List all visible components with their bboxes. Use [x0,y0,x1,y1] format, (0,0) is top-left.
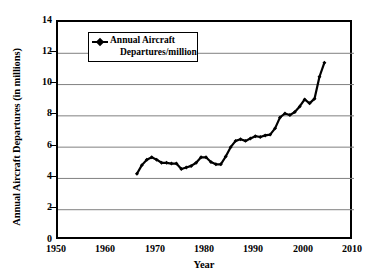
x-tick-label-1960: 1960 [83,243,127,254]
data-point-1973 [169,162,173,166]
x-tick-label-2000: 2000 [281,243,325,254]
x-tick-label-1980: 1980 [182,243,226,254]
legend-label-line2: Departures/million [110,47,197,59]
y-tick-label-6: 6 [26,140,52,150]
data-series-markers [135,61,326,176]
legend-label-line1: Annual Aircraft [110,35,175,45]
y-tick-label-10: 10 [26,77,52,87]
x-tick-label-1950: 1950 [34,243,78,254]
x-tick-label-1970: 1970 [133,243,177,254]
x-tick-label-2010: 2010 [330,243,374,254]
chart-legend: Annual Aircraft Departures/million [88,32,198,62]
x-axis-title: Year [56,258,352,272]
y-tick-label-4: 4 [26,171,52,181]
y-axis-tick-labels: 14 12 10 8 6 4 2 0 [20,0,52,280]
legend-label-block: Annual Aircraft Departures/million [110,35,197,58]
legend-diamond-marker [96,37,104,45]
data-series-line [137,63,324,174]
legend-entry: Annual Aircraft Departures/million [92,35,194,58]
line-with-diamond-marker-icon [92,36,108,48]
y-tick-label-2: 2 [26,202,52,212]
data-point-1972 [165,161,169,165]
x-tick-label-1990: 1990 [231,243,275,254]
chart-figure: Annual Aircraft Departures (in millions)… [0,0,379,280]
y-tick-label-14: 14 [26,15,52,25]
y-tick-label-12: 12 [26,46,52,56]
y-tick-label-8: 8 [26,108,52,118]
gridlines [58,53,354,209]
